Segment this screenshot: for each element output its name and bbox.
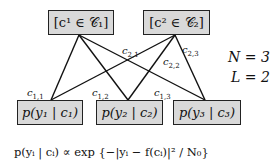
likelihood-formula: p(yᵢ | cᵢ) ∝ exp {−|yᵢ − f(cᵢ)|² / N₀}: [14, 145, 209, 159]
param-l: L = 2: [231, 70, 270, 84]
variable-node-c2-label: [c² ∈ 𝒞₂]: [149, 15, 204, 31]
factor-node-p3-label: p(y₃ | c₃): [179, 105, 235, 120]
variable-node-c2: [c² ∈ 𝒞₂]: [143, 10, 210, 35]
edge-label-c22: c2,2: [163, 57, 180, 70]
factor-node-p1-label: p(y₁ | c₁): [22, 105, 78, 120]
edge-label-c21: c2,1: [122, 46, 139, 59]
edge-c1-p1: [51, 35, 79, 100]
factor-node-p2-label: p(y₂ | c₂): [101, 105, 157, 120]
variable-node-c1-label: [c¹ ∈ 𝒞₁]: [54, 15, 109, 31]
edge-label-c23: c2,3: [182, 45, 199, 58]
edge-label-c11: c1,1: [27, 88, 44, 101]
edge-label-c13: c1,3: [154, 88, 171, 101]
edge-label-c12: c1,2: [92, 88, 109, 101]
param-n: N = 3: [228, 50, 270, 64]
factor-node-p1: p(y₁ | c₁): [17, 100, 83, 125]
factor-node-p3: p(y₃ | c₃): [173, 100, 241, 125]
factor-node-p2: p(y₂ | c₂): [96, 100, 163, 125]
variable-node-c1: [c¹ ∈ 𝒞₁]: [48, 10, 114, 35]
